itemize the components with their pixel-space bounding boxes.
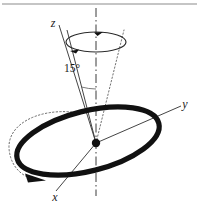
precession-arrow-far-icon [94, 32, 103, 36]
spinning-disk-ring [10, 94, 166, 188]
tilt-angle-label: 15° [64, 62, 81, 74]
x-axis-line [56, 143, 96, 191]
figure-container: z 15° y x [0, 0, 199, 213]
x-axis-label: x [51, 190, 58, 204]
precessing-disk-diagram: z 15° y x [0, 0, 199, 213]
spin-axis-z-line [59, 25, 96, 143]
cone-left-edge [67, 30, 96, 143]
tilt-angle-arc [82, 87, 97, 89]
cone-right-edge [96, 30, 124, 143]
z-axis-label: z [50, 16, 56, 30]
precession-arrow-near-icon [70, 50, 79, 54]
origin-point [92, 139, 100, 147]
y-axis-label: y [181, 97, 188, 111]
